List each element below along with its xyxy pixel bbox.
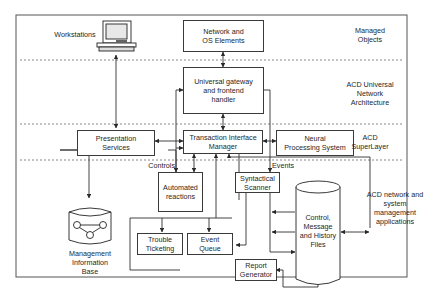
layer-label-universal-architecture: ACD Universal Network Architecture xyxy=(335,80,405,107)
node-report-label: Report Generator xyxy=(240,261,272,279)
node-report-generator: Report Generator xyxy=(235,259,277,281)
node-universal-gateway: Universal gateway and frontend handler xyxy=(183,67,264,114)
node-trouble-label: Trouble Ticketing xyxy=(146,235,175,253)
node-tim-label: Transaction Interface Manager xyxy=(189,133,256,151)
node-syntactical-scanner: Syntactical Scanner xyxy=(235,172,280,193)
node-event-queue-label: Event Queue xyxy=(199,235,221,253)
node-syntactical-label: Syntactical Scanner xyxy=(240,174,275,192)
node-event-queue: Event Queue xyxy=(187,233,233,255)
node-automated-reactions: Automated reactions xyxy=(158,172,203,212)
events-label: Events xyxy=(272,161,302,170)
node-trouble-ticketing: Trouble Ticketing xyxy=(137,233,183,255)
layer-label-managed-objects: Managed Objects xyxy=(335,26,405,44)
layer-label-superlayer: ACD SuperLayer xyxy=(335,133,405,151)
node-universal-gateway-label: Universal gateway and frontend handler xyxy=(194,77,253,104)
node-automated-label: Automated reactions xyxy=(163,183,198,201)
node-network-os: Network and OS Elements xyxy=(183,20,264,52)
database-icon xyxy=(69,208,111,244)
files-label: Control, Message and History Files xyxy=(296,213,340,249)
layer-label-management-apps: ACD network and system management applic… xyxy=(360,190,430,226)
node-presentation-services: Presentation Services xyxy=(77,130,155,156)
node-transaction-interface-manager: Transaction Interface Manager xyxy=(183,130,263,154)
controls-label: Controls xyxy=(145,161,175,170)
workstations-label: Workstations xyxy=(50,30,100,39)
mib-label: Management Information Base xyxy=(60,249,120,276)
workstation-icon xyxy=(97,21,136,51)
node-network-os-label: Network and OS Elements xyxy=(202,27,244,45)
node-presentation-label: Presentation Services xyxy=(96,134,136,152)
